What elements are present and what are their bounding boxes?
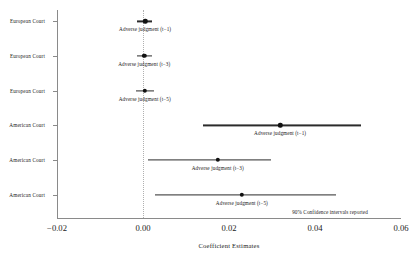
point-estimate-marker: [240, 192, 244, 196]
estimate-label: Adverse judgment (t−5): [216, 200, 268, 206]
y-axis-label-american-court: American Court: [9, 122, 45, 128]
x-axis-tick-label: 0.02: [221, 223, 236, 233]
estimate-label: Adverse judgment (t−3): [192, 165, 244, 171]
estimate-label: Adverse judgment (t−1): [119, 26, 171, 32]
y-axis-label-american-court: American Court: [9, 192, 45, 198]
x-axis-title: Coefficient Estimates: [57, 242, 401, 249]
y-axis-line: [57, 10, 58, 218]
y-axis-tick: [53, 195, 57, 196]
point-estimate-marker: [216, 158, 220, 162]
x-axis-tick-label: 0.00: [135, 223, 150, 233]
x-axis-tick-label: 0.04: [307, 223, 322, 233]
point-estimate-marker: [143, 88, 147, 92]
y-axis-tick: [53, 125, 57, 126]
y-axis-label-european-court: European Court: [10, 18, 45, 24]
point-estimate-marker: [142, 54, 146, 58]
y-axis-tick: [53, 21, 57, 22]
y-axis-tick: [53, 91, 57, 92]
confidence-interval-line: [155, 194, 335, 195]
estimate-label: Adverse judgment (t−5): [119, 96, 171, 102]
point-estimate-marker: [143, 19, 147, 23]
point-estimate-marker: [278, 123, 282, 127]
x-axis-tick-label: 0.06: [393, 223, 408, 233]
y-axis-tick: [53, 160, 57, 161]
y-axis-label-american-court: American Court: [9, 157, 45, 163]
coefficient-plot: European CourtEuropean CourtEuropean Cou…: [0, 0, 409, 256]
y-axis-label-european-court: European Court: [10, 88, 45, 94]
plot-area: European CourtEuropean CourtEuropean Cou…: [57, 10, 401, 218]
y-axis-label-european-court: European Court: [10, 53, 45, 59]
estimate-label: Adverse judgment (t−1): [254, 130, 306, 136]
x-axis-tick-label: −0.02: [47, 223, 67, 233]
zero-reference-line: [143, 10, 144, 218]
x-axis-line: [57, 218, 401, 219]
confidence-interval-line: [203, 125, 361, 126]
confidence-interval-note: 90% Confidence intervals reported: [292, 209, 368, 215]
confidence-interval-line: [148, 159, 271, 160]
estimate-label: Adverse judgment (t−3): [118, 61, 170, 67]
y-axis-tick: [53, 56, 57, 57]
